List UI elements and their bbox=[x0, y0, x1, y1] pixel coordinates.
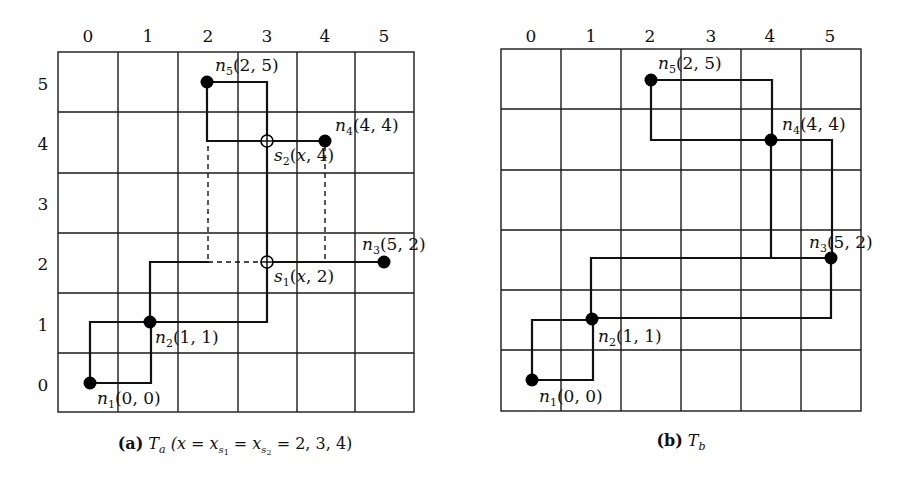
pin-n5 bbox=[201, 76, 214, 89]
pin-n3 bbox=[378, 256, 391, 269]
x-tick-2: 2 bbox=[203, 26, 214, 46]
pin-n1 bbox=[84, 377, 97, 390]
panel-a: 0 1 2 3 4 5 5 4 3 2 1 0 bbox=[38, 26, 426, 457]
panel-b-caption: (b) Tb bbox=[656, 431, 705, 453]
panel-b-labels: n1(0, 0) n2(1, 1) n3(5, 2) n4(4, 4) n5(2… bbox=[539, 53, 873, 409]
x-tick-2: 2 bbox=[645, 26, 656, 46]
x-tick-0: 0 bbox=[83, 26, 94, 46]
label-n1: n1(0, 0) bbox=[97, 388, 161, 411]
panel-b: 0 1 2 3 4 5 bbox=[501, 26, 873, 453]
pin-n2 bbox=[586, 313, 599, 326]
panel-b-x-axis-labels: 0 1 2 3 4 5 bbox=[526, 26, 836, 46]
y-tick-4: 4 bbox=[38, 134, 49, 154]
y-tick-5: 5 bbox=[38, 74, 49, 94]
x-tick-5: 5 bbox=[825, 26, 836, 46]
panel-a-caption: (a) Ta (x = xs1 = xs2 = 2, 3, 4) bbox=[118, 434, 353, 457]
label-n3: n3(5, 2) bbox=[809, 232, 873, 255]
pin-n4 bbox=[765, 134, 778, 147]
x-tick-1: 1 bbox=[143, 26, 154, 46]
label-n4: n4(4, 4) bbox=[782, 114, 846, 137]
label-n4: n4(4, 4) bbox=[335, 115, 399, 138]
pin-n1 bbox=[526, 374, 539, 387]
label-n1: n1(0, 0) bbox=[539, 386, 603, 409]
label-s2: s2(x, 4) bbox=[274, 145, 334, 168]
panel-a-grid bbox=[58, 52, 414, 412]
label-n3: n3(5, 2) bbox=[362, 234, 426, 257]
x-tick-0: 0 bbox=[526, 26, 537, 46]
y-tick-3: 3 bbox=[38, 194, 49, 214]
label-s1: s1(x, 2) bbox=[274, 266, 334, 289]
x-tick-4: 4 bbox=[320, 26, 331, 46]
label-n5: n5(2, 5) bbox=[658, 53, 722, 76]
x-tick-3: 3 bbox=[706, 26, 717, 46]
pin-n5 bbox=[645, 74, 658, 87]
steiner-point-s1 bbox=[261, 256, 273, 268]
x-tick-1: 1 bbox=[586, 26, 597, 46]
y-tick-1: 1 bbox=[38, 315, 49, 335]
panel-b-grid bbox=[501, 49, 861, 411]
steiner-point-s2 bbox=[261, 135, 273, 147]
y-tick-2: 2 bbox=[38, 254, 49, 274]
label-n2: n2(1, 1) bbox=[155, 327, 219, 350]
x-tick-5: 5 bbox=[379, 26, 390, 46]
routing-tree-figure: 0 1 2 3 4 5 5 4 3 2 1 0 bbox=[0, 0, 909, 485]
panel-a-y-axis-labels: 5 4 3 2 1 0 bbox=[38, 74, 49, 395]
y-tick-0: 0 bbox=[38, 375, 49, 395]
panel-a-x-axis-labels: 0 1 2 3 4 5 bbox=[83, 26, 390, 46]
x-tick-3: 3 bbox=[262, 26, 273, 46]
label-n2: n2(1, 1) bbox=[598, 326, 662, 349]
label-n5: n5(2, 5) bbox=[215, 55, 279, 78]
x-tick-4: 4 bbox=[765, 26, 776, 46]
